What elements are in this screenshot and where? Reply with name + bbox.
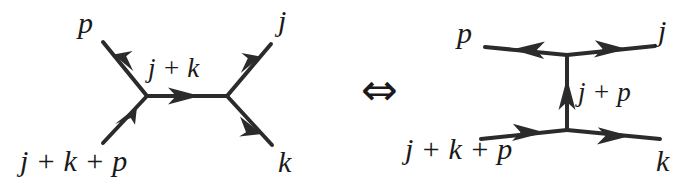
right-label-p: p — [457, 18, 472, 48]
right-leg-j — [567, 40, 655, 57]
right-label-jkp: j + k + p — [405, 134, 512, 164]
right-label-k: k — [656, 146, 669, 176]
figure-canvas: p j j + k j + k + p k ⇔ — [0, 0, 692, 182]
right-leg-p — [485, 42, 567, 60]
right-label-j: j — [658, 16, 666, 46]
right-leg-k — [567, 127, 660, 144]
right-propagator-jp — [559, 55, 576, 130]
right-label-internal-jp: j + p — [578, 79, 631, 106]
